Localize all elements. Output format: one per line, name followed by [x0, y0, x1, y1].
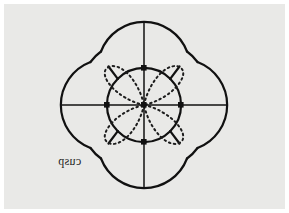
point-center [141, 102, 147, 108]
cusp-label: cusp [58, 154, 81, 169]
quatrefoil-diagram [0, 0, 289, 213]
point-right [178, 102, 184, 108]
point-bottom [141, 139, 147, 145]
point-top [141, 65, 147, 71]
point-left [104, 102, 110, 108]
figure-page: cusp [0, 0, 289, 213]
